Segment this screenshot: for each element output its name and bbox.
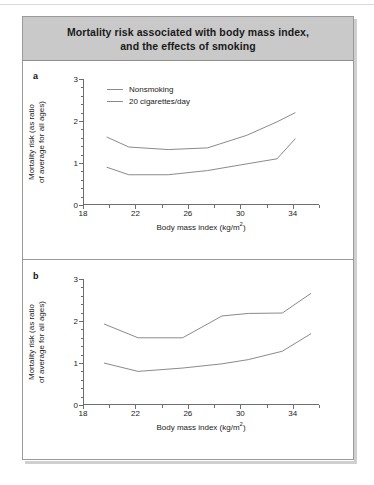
panel-a-x-tick-label-18: 18 <box>79 209 88 218</box>
panel-a-y-tick-label-2: 2 <box>74 117 78 126</box>
panel-a-x-minor-tick <box>214 205 215 208</box>
legend-line-icon-nonsmoking <box>107 89 123 90</box>
legend-label-smoking: 20 cigarettes/day <box>129 97 190 106</box>
panel-b-x-axis-title-tail: ) <box>243 423 246 432</box>
panel-b-x-tick-label-22: 22 <box>131 409 140 418</box>
panel-a-y-tick-label-0: 0 <box>74 201 78 210</box>
panel-b-y-minor-tick <box>81 371 84 372</box>
figure-page: Mortality risk associated with body mass… <box>0 0 374 485</box>
panel-a-y-minor-tick <box>81 96 84 97</box>
panel-a-y-minor-tick <box>81 197 84 198</box>
panel-a-x-axis-title-base: Body mass index (kg/m <box>156 223 239 232</box>
panel-b-y-minor-tick <box>81 287 84 288</box>
panel-b-y-minor-tick <box>81 346 84 347</box>
panel-a-x-minor-tick <box>267 205 268 208</box>
panel-b-y-tick-label-0: 0 <box>74 401 78 410</box>
panel-a-x-tick-label-22: 22 <box>131 209 140 218</box>
figure-title: Mortality risk associated with body mass… <box>47 25 329 53</box>
panel-a-y-minor-tick <box>81 188 84 189</box>
panel-b-y-minor-tick <box>81 338 84 339</box>
panel-b-series-lines <box>83 279 319 405</box>
panel-b-y-minor-tick <box>81 388 84 389</box>
panel-b-y-axis-title-line-1: Mortality risk (as ratio <box>27 304 36 380</box>
panel-a-x-axis-title: Body mass index (kg/m2) <box>83 221 319 232</box>
panel-b-y-tick-2 <box>79 321 83 322</box>
panel-a-y-tick-2 <box>79 121 83 122</box>
panel-b-x-axis-title-base: Body mass index (kg/m <box>156 423 239 432</box>
page-top-rule <box>0 4 374 5</box>
panel-b-x-minor-tick <box>109 405 110 408</box>
panel-b-y-minor-tick <box>81 313 84 314</box>
panel-b-x-tick-label-30: 30 <box>236 409 245 418</box>
panel-b-y-tick-label-3: 3 <box>74 275 78 284</box>
panel-a-y-axis-title: Mortality risk (as ratio of average for … <box>27 82 47 202</box>
panel-b-y-axis-title-line-2: of average for all ages) <box>37 301 46 383</box>
panel-b-y-tick-label-2: 2 <box>74 317 78 326</box>
panel-a-x-minor-tick <box>319 205 320 208</box>
panel-b: b Mortality risk (as ratio of average fo… <box>23 261 353 460</box>
figure-source-caption <box>14 470 360 482</box>
panel-b-x-minor-tick <box>214 405 215 408</box>
legend-label-nonsmoking: Nonsmoking <box>129 85 173 94</box>
figure-title-line-1: Mortality risk associated with body mass… <box>67 26 309 38</box>
panel-b-x-tick-label-18: 18 <box>79 409 88 418</box>
figure-title-line-2: and the effects of smoking <box>120 40 256 52</box>
panel-a-x-axis-title-tail: ) <box>243 223 246 232</box>
panel-a-y-axis-title-line-2: of average for all ages) <box>37 101 46 183</box>
panel-a-x-tick-label-26: 26 <box>183 209 192 218</box>
panel-a-line-nonsmoking <box>107 139 296 175</box>
panel-a-line-20-cigarettes-day <box>107 113 296 150</box>
panel-a-y-minor-tick <box>81 180 84 181</box>
panel-a-plot-area: Mortality risk (as ratio of average for … <box>83 79 319 205</box>
panel-a-x-minor-tick <box>109 205 110 208</box>
figure-container: Mortality risk associated with body mass… <box>22 16 354 460</box>
panel-b-line-20-cigarettes-day <box>104 293 311 338</box>
panel-a-label: a <box>33 71 38 81</box>
panel-a-y-tick-1 <box>79 163 83 164</box>
panel-a-y-minor-tick <box>81 138 84 139</box>
panel-b-y-minor-tick <box>81 329 84 330</box>
figure-shadow-bottom <box>25 461 357 464</box>
panel-b-y-minor-tick <box>81 296 84 297</box>
panel-a-y-tick-3 <box>79 79 83 80</box>
panel-a-y-minor-tick <box>81 146 84 147</box>
panel-b-y-minor-tick <box>81 355 84 356</box>
legend-line-icon-smoking <box>107 101 123 102</box>
panel-a-y-tick-label-1: 1 <box>74 159 78 168</box>
panel-b-y-minor-tick <box>81 397 84 398</box>
figure-shadow-right <box>354 19 357 464</box>
panel-a-y-minor-tick <box>81 87 84 88</box>
panel-b-x-minor-tick <box>267 405 268 408</box>
panel-b-y-tick-3 <box>79 279 83 280</box>
panel-a-legend: Nonsmoking 20 cigarettes/day <box>107 83 190 107</box>
legend-item-smoking: 20 cigarettes/day <box>107 95 190 107</box>
panel-a-x-tick-label-34: 34 <box>288 209 297 218</box>
panel-a-x-tick-label-30: 30 <box>236 209 245 218</box>
panel-a-y-minor-tick <box>81 104 84 105</box>
panel-b-x-minor-tick <box>162 405 163 408</box>
panel-a-y-minor-tick <box>81 113 84 114</box>
panel-a-y-minor-tick <box>81 129 84 130</box>
panel-b-y-tick-1 <box>79 363 83 364</box>
panel-b-x-tick-label-34: 34 <box>288 409 297 418</box>
panel-a-y-tick-label-3: 3 <box>74 75 78 84</box>
legend-item-nonsmoking: Nonsmoking <box>107 83 190 95</box>
panel-b-y-tick-label-1: 1 <box>74 359 78 368</box>
panel-a-y-minor-tick <box>81 171 84 172</box>
panel-b-x-axis-title: Body mass index (kg/m2) <box>83 421 319 432</box>
figure-title-band: Mortality risk associated with body mass… <box>23 17 353 61</box>
panel-b-label: b <box>33 271 39 281</box>
panel-b-y-minor-tick <box>81 304 84 305</box>
panel-b-y-axis-title: Mortality risk (as ratio of average for … <box>27 282 47 402</box>
panel-a-y-minor-tick <box>81 155 84 156</box>
panel-b-plot-area: Mortality risk (as ratio of average for … <box>83 279 319 405</box>
panel-a: a Mortality risk (as ratio of average fo… <box>23 61 353 260</box>
panel-b-y-minor-tick <box>81 380 84 381</box>
panel-b-x-minor-tick <box>319 405 320 408</box>
panel-b-line-nonsmoking <box>104 334 311 372</box>
panel-b-x-tick-label-26: 26 <box>183 409 192 418</box>
panel-a-x-minor-tick <box>162 205 163 208</box>
panel-a-y-axis-title-line-1: Mortality risk (as ratio <box>27 104 36 180</box>
